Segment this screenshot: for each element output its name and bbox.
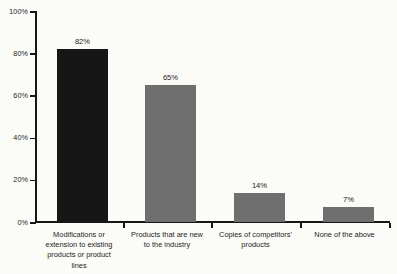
x-tick-2 — [211, 223, 213, 228]
bar-none-of-the-above[interactable] — [323, 207, 374, 222]
category-label-line: Copies of competitors' — [211, 230, 300, 240]
category-label-line: None of the above — [300, 230, 389, 240]
y-tick-label-40: 40% — [0, 134, 28, 141]
bar-chart: 100% 80% 60% 40% 20% 0% 82% 65% 14% 7% M… — [0, 0, 397, 274]
category-label-line: products — [211, 240, 300, 250]
category-label-line: Products that are new — [123, 230, 211, 240]
y-tick-0 — [30, 222, 36, 224]
y-tick-40 — [30, 138, 36, 140]
x-tick-4 — [389, 223, 391, 228]
y-tick-label-0: 0% — [0, 219, 28, 226]
bar-value-label: 14% — [225, 182, 295, 190]
bar-modifications[interactable] — [57, 49, 108, 222]
x-category-label-none: None of the above — [300, 230, 389, 240]
y-tick-label-20: 20% — [0, 176, 28, 183]
category-label-line: extension to existing — [35, 240, 123, 250]
bar-value-label: 65% — [136, 74, 206, 82]
bar-new-to-industry[interactable] — [145, 85, 196, 222]
y-tick-label-100: 100% — [0, 8, 28, 15]
category-label-line: products or product — [35, 250, 123, 260]
y-tick-80 — [30, 53, 36, 55]
y-axis-line — [35, 11, 37, 223]
x-category-label-new-to-industry: Products that are new to the industry — [123, 230, 211, 250]
x-category-label-modifications: Modifications or extension to existing p… — [35, 230, 123, 271]
category-label-line: lines — [35, 261, 123, 271]
x-tick-3 — [300, 223, 302, 228]
bar-value-label: 7% — [314, 196, 384, 204]
x-tick-1 — [123, 223, 125, 228]
y-tick-60 — [30, 95, 36, 97]
bar-value-label: 82% — [48, 38, 118, 46]
x-category-label-copies: Copies of competitors' products — [211, 230, 300, 250]
category-label-line: Modifications or — [35, 230, 123, 240]
bar-copies-of-competitors[interactable] — [234, 193, 285, 223]
y-tick-20 — [30, 180, 36, 182]
y-tick-label-80: 80% — [0, 50, 28, 57]
y-tick-100 — [30, 11, 36, 13]
category-label-line: to the industry — [123, 240, 211, 250]
y-tick-label-60: 60% — [0, 92, 28, 99]
